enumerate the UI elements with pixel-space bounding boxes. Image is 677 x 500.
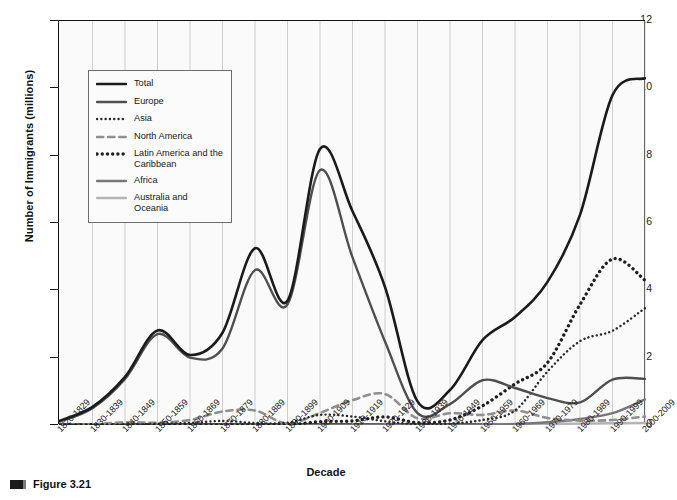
legend-item-africa[interactable]: Africa <box>96 175 224 187</box>
legend-item-europe[interactable]: Europe <box>96 96 224 108</box>
legend-label-australia-and-oceania: Australia and Oceania <box>134 192 224 213</box>
legend-swatch-australia-and-oceania <box>96 192 127 204</box>
y-tick-mark-10 <box>50 87 58 88</box>
legend-label-europe: Europe <box>134 96 164 107</box>
y-tick-mark-8 <box>50 155 58 156</box>
y-axis-title: Number of Immigrants (millions) <box>23 51 35 261</box>
legend-swatch-asia <box>96 113 127 125</box>
legend-label-africa: Africa <box>134 175 158 186</box>
legend-swatch-latin-america-and-the-caribbean <box>96 148 127 160</box>
legend-item-total[interactable]: Total <box>96 78 224 90</box>
x-axis-title: Decade <box>0 466 652 478</box>
legend-swatch-europe <box>96 96 127 108</box>
legend-label-latin-america-and-the-caribbean: Latin America and the Caribbean <box>134 148 224 169</box>
y-tick-mark-12 <box>50 20 58 21</box>
legend-item-north-america[interactable]: North America <box>96 131 224 143</box>
y-tick-mark-2 <box>50 357 58 358</box>
y-tick-mark-4 <box>50 289 58 290</box>
figure-caption: Figure 3.21 <box>10 478 91 490</box>
y-tick-mark-6 <box>50 222 58 223</box>
legend-item-asia[interactable]: Asia <box>96 113 224 125</box>
figure-square-marker <box>10 480 26 489</box>
chart-legend: TotalEuropeAsiaNorth AmericaLatin Americ… <box>88 70 232 223</box>
legend-label-total: Total <box>134 78 153 89</box>
legend-label-north-america: North America <box>134 131 192 142</box>
legend-swatch-africa <box>96 175 127 187</box>
legend-swatch-north-america <box>96 131 127 143</box>
legend-item-latin-america-and-the-caribbean[interactable]: Latin America and the Caribbean <box>96 148 224 169</box>
legend-swatch-total <box>96 78 127 90</box>
legend-item-australia-and-oceania[interactable]: Australia and Oceania <box>96 192 224 213</box>
legend-label-asia: Asia <box>134 113 152 124</box>
figure-caption-text: Figure 3.21 <box>33 478 91 490</box>
